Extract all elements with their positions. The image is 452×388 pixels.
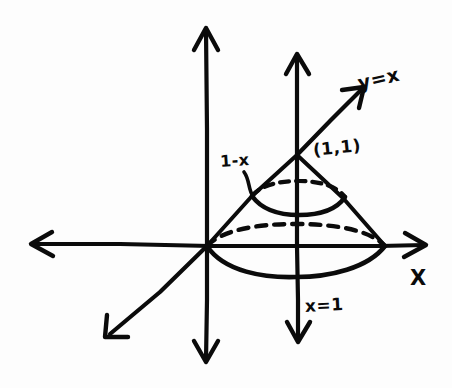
x-equals-1-line [297,56,298,340]
sketch-svg [0,0,452,388]
radius-leader-line [244,172,253,196]
y-axis-line [110,246,207,334]
label-plane-x-equals-1: x=1 [304,294,344,316]
x-axis-line [34,244,424,246]
z-axis-line [206,30,207,360]
label-radius-annotation: 1-x [219,150,250,171]
diagram-canvas: y=x (1,1) 1-x x=1 X [0,0,452,388]
label-x-axis: X [410,266,427,290]
